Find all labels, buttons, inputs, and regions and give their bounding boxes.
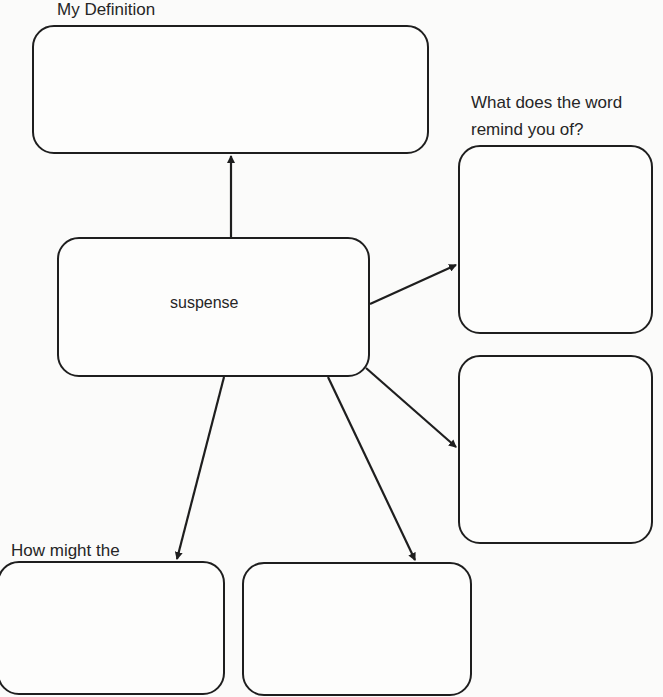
arrow-to-bottom-middle	[328, 377, 415, 560]
arrow-to-usage	[177, 377, 224, 559]
connector-arrows	[0, 0, 663, 697]
arrow-to-remind	[370, 265, 456, 304]
arrow-to-right-middle	[366, 368, 456, 447]
